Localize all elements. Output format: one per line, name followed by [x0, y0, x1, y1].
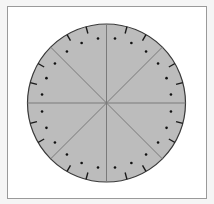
- dot-marker: [97, 166, 100, 169]
- dot-marker: [41, 110, 44, 113]
- dot-marker: [170, 110, 173, 113]
- dot-marker: [145, 50, 148, 53]
- dot-marker: [145, 153, 148, 156]
- dot-marker: [80, 162, 83, 165]
- dot-marker: [157, 62, 160, 65]
- dot-marker: [165, 127, 168, 130]
- dot-marker: [165, 77, 168, 80]
- radial-lines: [28, 24, 186, 182]
- dot-marker: [157, 141, 160, 144]
- dot-marker: [45, 127, 48, 130]
- dot-marker: [130, 42, 133, 45]
- dot-marker: [54, 141, 57, 144]
- segmented-dial: [0, 0, 214, 204]
- dot-marker: [66, 50, 69, 53]
- dot-marker: [114, 166, 117, 169]
- dot-marker: [130, 162, 133, 165]
- dot-marker: [66, 153, 69, 156]
- dot-marker: [114, 37, 117, 40]
- dot-marker: [80, 42, 83, 45]
- dot-marker: [170, 93, 173, 96]
- dot-marker: [45, 77, 48, 80]
- dot-marker: [54, 62, 57, 65]
- dot-marker: [97, 37, 100, 40]
- dot-marker: [41, 93, 44, 96]
